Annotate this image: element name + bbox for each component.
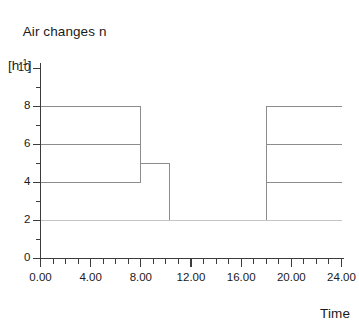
x-tick-label-12: 12.00 xyxy=(164,271,218,283)
x-tick-label-24: 24.00 xyxy=(315,271,359,283)
series-line-schedule-4 xyxy=(41,164,342,221)
y-tick-label-0: 0 xyxy=(4,251,31,263)
series-line-schedule-8 xyxy=(41,107,342,221)
y-tick-label-6: 6 xyxy=(4,137,31,149)
x-tick-label-8: 8.00 xyxy=(114,271,168,283)
y-tick-label-8: 8 xyxy=(4,99,31,111)
y-tick-label-4: 4 xyxy=(4,175,31,187)
air-changes-chart-figure: Air changes n [h-1] 0246810 0.004.008.00… xyxy=(0,0,359,325)
x-tick-label-0: 0.00 xyxy=(14,271,68,283)
x-tick-label-16: 16.00 xyxy=(214,271,268,283)
y-tick-label-2: 2 xyxy=(4,213,31,225)
y-tick-label-10: 10 xyxy=(4,61,31,73)
x-axis-title: Time xyxy=(320,306,350,321)
x-tick-label-4: 4.00 xyxy=(64,271,118,283)
x-tick-label-20: 20.00 xyxy=(264,271,318,283)
